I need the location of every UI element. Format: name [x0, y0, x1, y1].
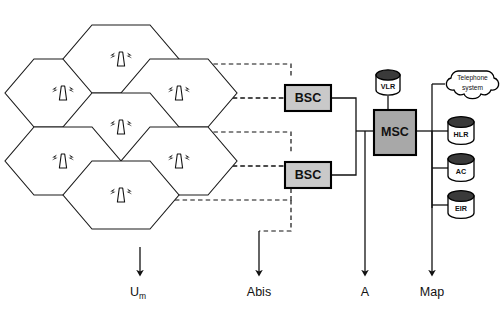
hlr-node[interactable]: HLR: [448, 117, 474, 145]
vlr-cylinder-top: [376, 70, 400, 80]
bsc-top-node[interactable]: BSC: [285, 85, 331, 111]
ac-cylinder-top: [448, 154, 474, 165]
eir-cylinder-top: [448, 191, 474, 202]
bsc-bottom-label: BSC: [295, 168, 321, 182]
bsc-top-label: BSC: [295, 91, 321, 105]
network-architecture-diagram: BSC BSC MSC VLR HLR AC EIR Telephone sys…: [0, 0, 501, 317]
a-label: A: [361, 285, 370, 299]
telephone-label-line2: system: [462, 84, 483, 92]
map-label: Map: [420, 285, 444, 299]
um-label: U: [130, 285, 139, 299]
abis-label: Abis: [247, 285, 271, 299]
vlr-node[interactable]: VLR: [376, 70, 400, 95]
msc-label: MSC: [381, 125, 409, 139]
ac-node[interactable]: AC: [448, 154, 474, 182]
vlr-label: VLR: [381, 82, 396, 91]
hlr-label: HLR: [454, 130, 470, 139]
ac-label: AC: [456, 167, 466, 176]
telephone-system-node[interactable]: Telephone system: [446, 71, 498, 99]
link-bsc-top-to-rail: [331, 98, 356, 131]
msc-node[interactable]: MSC: [374, 110, 416, 155]
eir-node[interactable]: EIR: [448, 191, 474, 219]
um-subscript: m: [139, 291, 146, 301]
bsc-bottom-node[interactable]: BSC: [285, 162, 331, 188]
um-label-group: Um: [130, 285, 146, 301]
hlr-cylinder-top: [448, 117, 474, 128]
interface-labels: Um Abis A Map: [130, 285, 444, 301]
telephone-label-line1: Telephone: [457, 74, 488, 82]
eir-label: EIR: [455, 204, 468, 213]
link-bsc-bottom-to-rail: [331, 131, 356, 175]
dash-rail-to-abis: [259, 200, 291, 231]
